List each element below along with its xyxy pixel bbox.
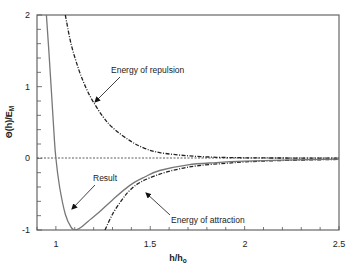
annotation-result: Result [93,173,118,183]
arrow-repulsion [95,77,120,102]
x-tick-label: 2.5 [333,239,346,249]
y-tick-label: 0 [25,153,30,163]
x-tick-label: 1 [53,239,58,249]
y-tick-label: -1 [22,225,30,235]
annotation-repulsion: Energy of repulsion [111,65,185,75]
annotation-attraction: Energy of attraction [171,215,245,225]
energy-chart: 1 1.5 2 2.5 2 1 0 -1 h/ho Θ(h)/EM Energy… [0,0,354,266]
x-axis-label: h/ho [169,253,187,264]
y-axis-label: Θ(h)/EM [4,106,15,138]
result-curve [46,15,339,230]
y-tick-label: 2 [25,10,30,20]
arrow-attraction [146,193,170,215]
x-tick-label: 1.5 [144,239,157,249]
repulsion-curve [65,15,339,158]
y-tick-label: 1 [25,82,30,92]
arrow-result [72,185,95,209]
x-tick-label: 2 [242,239,247,249]
